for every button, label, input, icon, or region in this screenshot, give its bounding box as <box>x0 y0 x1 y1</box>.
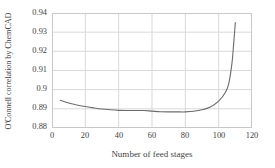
x-tick-label: 40 <box>104 131 134 140</box>
x-tick-label: 20 <box>70 131 100 140</box>
x-tick-label: 120 <box>237 131 267 140</box>
x-tick-label: 0 <box>37 131 67 140</box>
x-tick-label: 80 <box>170 131 200 140</box>
chart-container: O'Connell correlation by ChemCAD 0.94 0.… <box>0 0 275 168</box>
x-tick-label: 60 <box>137 131 167 140</box>
x-axis-tick-labels: 0 20 40 60 80 100 120 <box>0 0 275 168</box>
x-axis-title: Number of feed stages <box>52 149 252 159</box>
x-tick-label: 100 <box>204 131 234 140</box>
